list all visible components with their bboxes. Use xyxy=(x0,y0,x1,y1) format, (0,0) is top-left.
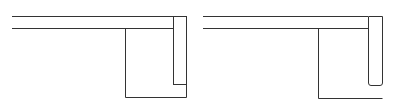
diagram-canvas xyxy=(0,0,395,109)
right-vertical-bar xyxy=(369,17,383,86)
left-figure xyxy=(12,17,187,98)
left-box xyxy=(126,29,187,98)
right-figure xyxy=(203,17,383,99)
left-vertical-bar xyxy=(174,17,187,85)
right-box xyxy=(319,29,383,99)
